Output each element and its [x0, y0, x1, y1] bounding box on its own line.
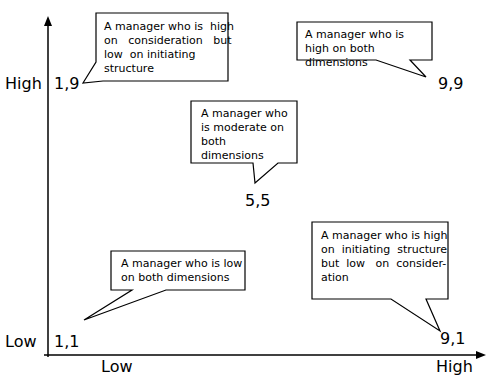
y-axis-high-label: High [5, 76, 42, 92]
callout-line: A manager who is high [321, 229, 445, 243]
callout-text-5-5: A manager who is moderate on both dimens… [201, 107, 291, 163]
x-axis-high-label: High [436, 359, 473, 375]
x-axis-arrow-icon [476, 351, 486, 359]
y-axis-low-label: Low [5, 334, 37, 350]
point-label-1-1: 1,1 [54, 334, 79, 350]
point-label-9-1: 9,1 [440, 331, 465, 347]
point-label-9-9: 9,9 [438, 76, 463, 92]
callout-line: low on initiating [104, 48, 222, 62]
callout-text-1-9: A manager who is high on consideration b… [104, 20, 222, 76]
callout-text-1-1: A manager who is low on both dimensions [121, 257, 243, 285]
callout-line: on consideration but [104, 34, 222, 48]
callout-line: ation [321, 271, 445, 285]
callout-line: A manager who is high [104, 20, 222, 34]
point-label-5-5: 5,5 [245, 193, 270, 209]
point-label-1-9: 1,9 [54, 76, 79, 92]
x-axis-low-label: Low [101, 359, 133, 375]
callout-line: on initiating structure [321, 243, 445, 257]
callout-line: but low on consider- [321, 257, 445, 271]
y-axis-arrow-icon [44, 16, 52, 26]
callout-text-9-9: A manager who is high on both dimensions [305, 28, 427, 70]
callout-line: structure [104, 62, 222, 76]
callout-text-9-1: A manager who is high on initiating stru… [321, 229, 445, 285]
